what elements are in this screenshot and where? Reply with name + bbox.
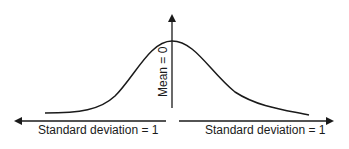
left-sd-label: Standard deviation = 1 <box>38 124 158 136</box>
right-sd-label: Standard deviation = 1 <box>205 124 325 136</box>
mean-label: Mean = 0 <box>157 47 169 97</box>
bell-curve <box>45 41 309 115</box>
